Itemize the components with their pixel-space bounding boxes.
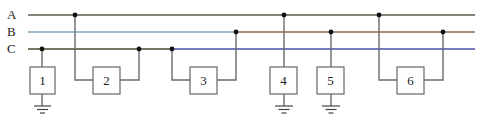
junction-dot xyxy=(282,13,287,18)
load-1: 1 xyxy=(30,47,55,113)
load-label-4: 4 xyxy=(280,73,287,88)
junction-dot xyxy=(377,13,382,18)
junction-dot xyxy=(73,13,78,18)
load-3: 3 xyxy=(170,30,239,94)
load-label-5: 5 xyxy=(327,73,334,88)
junction-dot xyxy=(234,30,239,35)
ground-icon xyxy=(275,106,293,113)
junction-dot xyxy=(329,30,334,35)
ground-icon xyxy=(322,106,340,113)
ground-icon xyxy=(34,106,51,113)
junction-dot xyxy=(441,30,446,35)
load-5: 5 xyxy=(317,30,344,113)
junction-dot xyxy=(170,47,175,52)
line-label-a: A xyxy=(7,7,17,22)
line-label-c: C xyxy=(7,41,16,56)
load-4: 4 xyxy=(270,13,297,113)
three-phase-circuit-diagram: A B C 1 2 3 xyxy=(0,0,482,124)
load-label-3: 3 xyxy=(200,73,207,88)
load-label-2: 2 xyxy=(103,73,110,88)
load-2: 2 xyxy=(73,13,142,94)
line-label-b: B xyxy=(7,24,16,39)
load-6: 6 xyxy=(377,13,446,94)
load-label-1: 1 xyxy=(39,73,46,88)
load-label-6: 6 xyxy=(407,73,414,88)
junction-dot xyxy=(40,47,45,52)
junction-dot xyxy=(137,47,142,52)
